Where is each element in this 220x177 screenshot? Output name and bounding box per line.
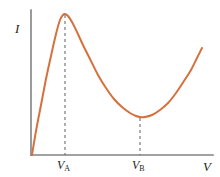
plot-canvas (0, 0, 220, 177)
iv-curve-path (32, 14, 202, 155)
tick-vb-subscript: B (139, 164, 144, 173)
x-axis-label: V (203, 160, 211, 173)
iv-characteristic-figure: I V VA VB (0, 0, 220, 177)
tick-va-subscript: A (64, 164, 70, 173)
y-axis-label: I (15, 22, 19, 35)
tick-label-vb: VB (132, 159, 145, 171)
tick-label-va: VA (57, 159, 70, 171)
